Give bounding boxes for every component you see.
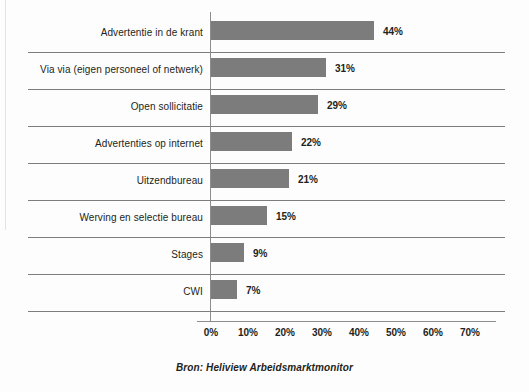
chart-row: Open sollicitatie29% <box>0 90 529 127</box>
bar-value-label: 9% <box>253 247 267 260</box>
x-tick-label: 60% <box>413 326 453 340</box>
bar <box>211 206 267 225</box>
category-label: Advertenties op internet <box>0 137 203 150</box>
bar <box>211 21 374 40</box>
chart-row: Uitzendbureau21% <box>0 164 529 201</box>
bar-value-label: 7% <box>246 284 260 297</box>
category-label: Stages <box>0 248 203 261</box>
x-tick-label: 10% <box>228 326 268 340</box>
bar-value-label: 31% <box>335 62 355 75</box>
x-axis-tick-labels: 0%10%20%30%40%50%60%70% <box>0 326 529 342</box>
bar <box>211 169 289 188</box>
row-gridline <box>28 311 505 312</box>
x-tick-label: 40% <box>339 326 379 340</box>
bar-value-label: 15% <box>276 210 296 223</box>
x-tick-label: 20% <box>265 326 305 340</box>
category-label: Werving en selectie bureau <box>0 211 203 224</box>
bar-value-label: 44% <box>383 25 403 38</box>
bar <box>211 58 326 77</box>
chart-row: Advertenties op internet22% <box>0 127 529 164</box>
x-tick-label: 50% <box>376 326 416 340</box>
x-tick-label: 30% <box>302 326 342 340</box>
bar-value-label: 29% <box>327 99 347 112</box>
category-label: Open sollicitatie <box>0 100 203 113</box>
x-tick-label: 0% <box>191 326 231 340</box>
category-label: Uitzendbureau <box>0 174 203 187</box>
bar <box>211 95 318 114</box>
bar <box>211 243 244 262</box>
source-caption: Bron: Heliview Arbeidsmarktmonitor <box>0 362 529 373</box>
bar <box>211 132 292 151</box>
category-label: CWI <box>0 285 203 298</box>
chart-row: Stages9% <box>0 238 529 275</box>
value-axis-line <box>197 321 496 322</box>
x-tick-label: 70% <box>450 326 490 340</box>
plot-area: Advertentie in de krant44%Via via (eigen… <box>0 12 529 322</box>
category-label: Via via (eigen personeel of netwerk) <box>0 63 203 76</box>
chart-row: CWI7% <box>0 275 529 312</box>
chart-row: Werving en selectie bureau15% <box>0 201 529 238</box>
chart-row: Advertentie in de krant44% <box>0 16 529 53</box>
bar-value-label: 21% <box>298 173 318 186</box>
bar <box>211 280 237 299</box>
chart-figure: Advertentie in de krant44%Via via (eigen… <box>0 0 529 392</box>
category-label: Advertentie in de krant <box>0 26 203 39</box>
bar-value-label: 22% <box>301 136 321 149</box>
chart-row: Via via (eigen personeel of netwerk)31% <box>0 53 529 90</box>
